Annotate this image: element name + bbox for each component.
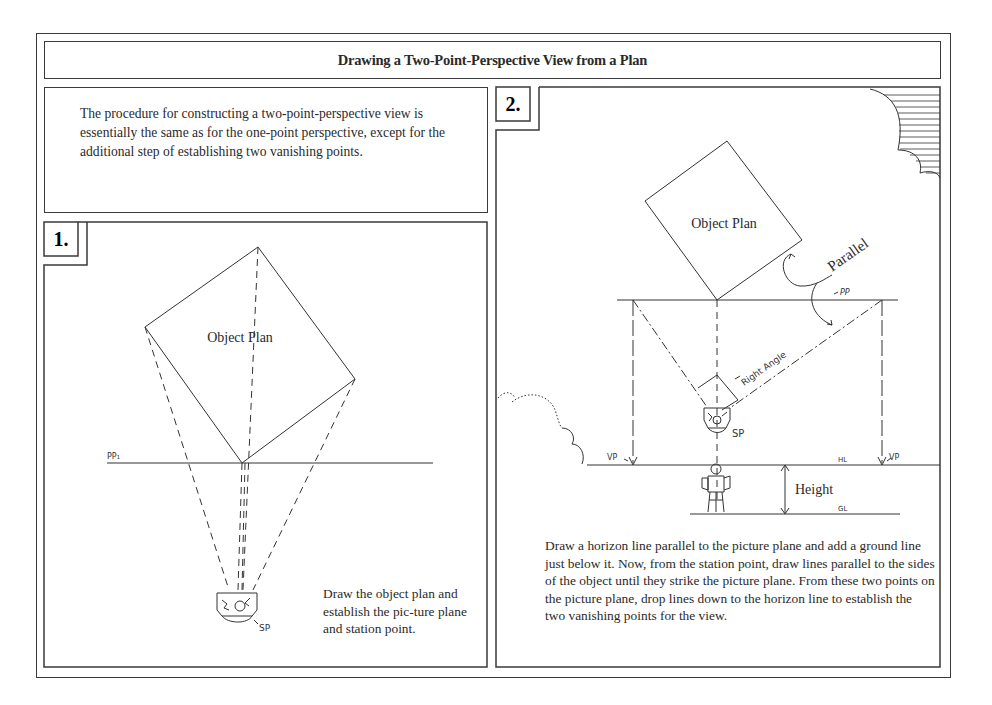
station-point-figure-icon (217, 593, 257, 622)
panel-2-caption: Draw a horizon line parallel to the pict… (545, 537, 935, 625)
panel-2-pp-label: PP (840, 288, 850, 297)
panel-1-sp-label: SP (259, 623, 271, 633)
parallel-arrow-down (812, 283, 832, 325)
parallel-label: Parallel (825, 235, 872, 274)
right-angle-label: Right Angle (739, 349, 788, 387)
panel-2-diagram (498, 89, 940, 514)
vp-right-label: VP (889, 453, 899, 462)
ground-line-label: GL (838, 505, 847, 513)
parallel-arrow-up (783, 254, 832, 286)
panel-2-number: 2. (506, 93, 521, 115)
height-label: Height (795, 482, 833, 497)
cloud-top-right-icon (870, 89, 940, 178)
horizon-line-label: HL (838, 456, 847, 464)
panel-1-number: 1. (54, 228, 69, 250)
panel-2-sp-label: SP (732, 428, 744, 439)
cloud-left-icon (498, 393, 583, 464)
panel-1-object-label: Object Plan (207, 330, 273, 345)
panel-2-object-label: Object Plan (691, 216, 757, 231)
panel-1-caption: Draw the object plan and establish the p… (323, 585, 473, 638)
observer-figure-icon (702, 464, 730, 512)
panel-1-diagram (107, 247, 433, 624)
vp-left-label: VP (607, 453, 617, 462)
panel-1-pp-label: PP₁ (107, 452, 120, 461)
